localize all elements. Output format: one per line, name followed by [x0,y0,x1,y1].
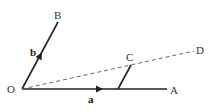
label-b: B [54,9,61,21]
vector-label-b: b [30,46,36,58]
vector-diagram: O A B C D a b [0,0,213,111]
label-o: O [7,83,15,95]
vector-label-a: a [88,93,94,105]
line-mc [118,65,131,89]
dashed-line-od [22,51,194,89]
label-d: D [196,44,204,56]
label-a: A [170,84,178,96]
arrow-a-icon [96,86,103,93]
label-c: C [126,51,133,63]
arrow-b-icon [35,51,44,60]
